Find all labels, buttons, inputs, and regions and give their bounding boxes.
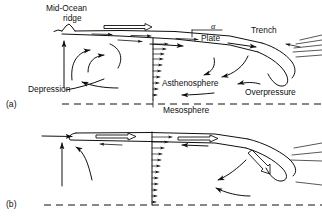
ridge-inflow-arrow-b: [42, 136, 72, 137]
plate-motion-hollow-arrow-b: [178, 135, 218, 142]
labels-group: Mid-Ocean ridge α Plate Trench Asthenosp…: [6, 3, 296, 209]
ridge-crest-profile: [54, 24, 75, 32]
panel-b-label: (b): [6, 199, 17, 209]
convection-streamlines-a: [66, 44, 121, 90]
velocity-profile-axis-b: [152, 132, 172, 205]
spreading-hollow-arrow-a: [104, 24, 152, 31]
trench-inflow-lines: [286, 35, 322, 57]
panel-a-label: (a): [6, 99, 17, 109]
figure-canvas: Mid-Ocean ridge α Plate Trench Asthenosp…: [0, 0, 322, 220]
trench-label: Trench: [251, 25, 277, 35]
return-flow-arrows-b: [216, 160, 250, 196]
tectonics-figure: Mid-Ocean ridge α Plate Trench Asthenosp…: [0, 0, 322, 220]
plate-label: Plate: [201, 33, 220, 43]
velocity-profile-axis-a: [153, 38, 168, 100]
depression-label: Depression: [28, 84, 71, 94]
counterflow-arrow-b: [100, 144, 208, 146]
trench-inflow-lines-b: [290, 143, 322, 185]
spreading-hollow-arrow-b: [96, 133, 136, 140]
overpressure-label: Overpressure: [245, 87, 296, 97]
asthenosphere-label: Asthenosphere: [162, 78, 219, 88]
panel-b-group: [42, 132, 322, 205]
mesosphere-label: Mesosphere: [163, 105, 209, 115]
convection-streamline-b: [76, 147, 92, 180]
angle-alpha-label: α: [211, 22, 216, 31]
mid-ocean-ridge-label-line1: Mid-Ocean: [46, 3, 87, 13]
mid-ocean-ridge-label-line2: ridge: [63, 13, 82, 23]
